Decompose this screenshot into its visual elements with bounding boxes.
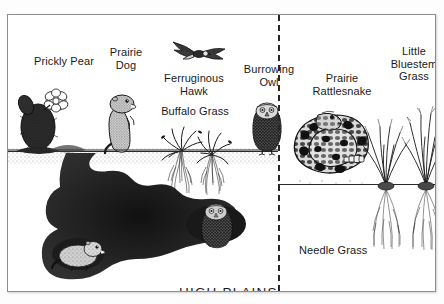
buffalo-grass-roots bbox=[156, 151, 242, 197]
figure-title: HIGH PLAINS bbox=[179, 285, 278, 292]
illustration-frame: Prickly Pear Prairie Dog Ferruginous Haw… bbox=[7, 14, 436, 292]
illustration-page: Prickly Pear Prairie Dog Ferruginous Haw… bbox=[0, 0, 444, 304]
label-prairie-dog: Prairie Dog bbox=[100, 46, 152, 71]
label-ferruginous-hawk: Ferruginous Hawk bbox=[155, 72, 233, 97]
label-prickly-pear: Prickly Pear bbox=[26, 55, 102, 68]
label-prairie-rattlesnake: Prairie Rattlesnake bbox=[306, 72, 378, 97]
label-buffalo-grass: Buffalo Grass bbox=[158, 105, 232, 118]
label-little-bluestem-grass: Little Bluestem Grass bbox=[385, 45, 436, 83]
label-needle-grass: Needle Grass bbox=[299, 244, 379, 257]
prairie-dog-standing bbox=[103, 92, 143, 154]
panel-divider bbox=[278, 15, 280, 291]
little-bluestem-clump bbox=[402, 99, 436, 251]
label-burrowing-owl: Burrowing Owl bbox=[237, 63, 301, 88]
prickly-pear-cactus bbox=[14, 83, 76, 155]
ferruginous-hawk-flying bbox=[171, 39, 227, 69]
